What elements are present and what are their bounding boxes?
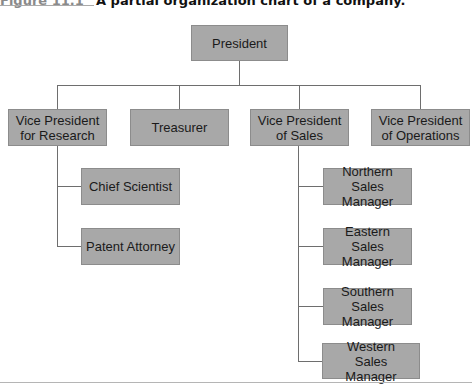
node-label: Treasurer <box>152 120 208 135</box>
connector-sales-trunk <box>298 146 299 362</box>
connector-chief-scientist <box>57 186 81 187</box>
figure-caption: Figure 11.1A partial organization chart … <box>0 0 405 8</box>
node-label: Southern Sales Manager <box>326 284 410 329</box>
connector-western <box>298 361 323 362</box>
node-label: Eastern Sales Manager <box>330 224 406 269</box>
connector-southern <box>298 306 323 307</box>
node-chief-scientist: Chief Scientist <box>81 168 180 205</box>
node-treasurer: Treasurer <box>130 109 229 146</box>
node-label: Western Sales Manager <box>331 339 411 384</box>
node-southern-sales-manager: Southern Sales Manager <box>323 288 412 325</box>
connector-operations-up <box>420 85 421 109</box>
node-vp-sales: Vice President of Sales <box>250 109 349 146</box>
node-label: Vice President for Research <box>13 113 103 143</box>
node-label: Vice President of Operations <box>376 113 466 143</box>
node-vp-operations: Vice President of Operations <box>371 109 470 146</box>
node-label: President <box>212 36 267 51</box>
node-western-sales-manager: Western Sales Manager <box>322 343 420 379</box>
connector-level1-horizontal <box>57 85 421 86</box>
node-label: Vice President of Sales <box>255 113 345 143</box>
node-northern-sales-manager: Northern Sales Manager <box>323 168 412 205</box>
node-vp-research: Vice President for Research <box>8 109 107 146</box>
connector-sales-up <box>299 85 300 109</box>
node-president: President <box>191 25 288 61</box>
figure-title: A partial organization chart of a compan… <box>96 0 405 8</box>
connector-northern <box>298 186 323 187</box>
connector-research-up <box>57 85 58 109</box>
node-label: Patent Attorney <box>86 239 175 254</box>
figure-label: Figure 11.1 <box>0 0 96 8</box>
connector-eastern <box>298 246 323 247</box>
node-label: Northern Sales Manager <box>326 164 410 209</box>
node-label: Chief Scientist <box>89 179 172 194</box>
caption-underline <box>0 5 94 6</box>
bottom-rule <box>0 382 472 383</box>
connector-research-trunk <box>57 146 58 247</box>
node-eastern-sales-manager: Eastern Sales Manager <box>323 228 412 265</box>
connector-treasurer-up <box>179 85 180 109</box>
node-patent-attorney: Patent Attorney <box>81 228 180 265</box>
connector-president-down <box>239 60 240 85</box>
connector-patent-attorney <box>57 246 81 247</box>
